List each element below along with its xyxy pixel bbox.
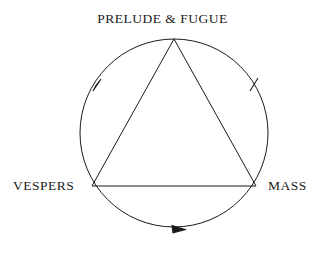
- outer-circle: [80, 39, 268, 227]
- node-label-mass: MASS: [268, 179, 307, 193]
- arrow-left-arc-icon: [93, 79, 101, 91]
- inscribed-triangle: [92, 39, 256, 186]
- node-label-prelude-and-fugue: PRELUDE & FUGUE: [0, 12, 325, 26]
- diagram-canvas: [0, 0, 325, 253]
- node-label-vespers: VESPERS: [13, 179, 74, 193]
- cycle-diagram: PRELUDE & FUGUE VESPERS MASS: [0, 0, 325, 253]
